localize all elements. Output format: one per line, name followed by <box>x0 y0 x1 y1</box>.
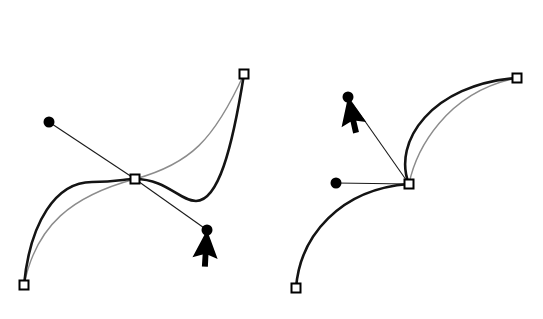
right-anchor-bottom-left[interactable] <box>292 284 301 293</box>
left-anchor-bottom-left[interactable] <box>20 281 29 290</box>
left-anchor-top-right[interactable] <box>240 70 249 79</box>
right-edited-curve-upper <box>405 78 517 184</box>
right-figure[interactable] <box>292 74 522 293</box>
right-edited-curve-lower <box>296 184 409 288</box>
right-anchor-top-right[interactable] <box>513 74 522 83</box>
right-mouse-cursor-icon <box>341 97 371 136</box>
left-handle-line-outgoing[interactable] <box>135 179 207 230</box>
right-original-curve <box>409 78 517 184</box>
right-control-point-incoming[interactable] <box>331 178 342 189</box>
bezier-illustration-canvas <box>0 0 543 319</box>
left-figure[interactable] <box>20 70 249 290</box>
left-control-point-incoming[interactable] <box>44 117 55 128</box>
right-handle-line-incoming[interactable] <box>336 183 409 184</box>
vector-drawing-surface[interactable] <box>0 0 543 319</box>
left-mouse-cursor-icon <box>191 230 228 271</box>
right-anchor-center[interactable] <box>405 180 414 189</box>
left-handle-line-incoming[interactable] <box>49 122 135 179</box>
left-anchor-center[interactable] <box>131 175 140 184</box>
